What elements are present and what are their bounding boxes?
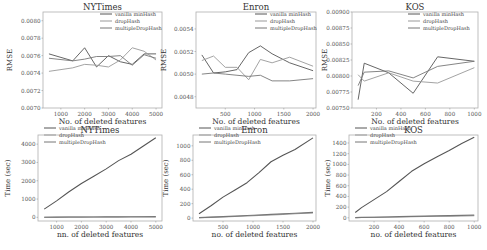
y-tick-label: 200 (336, 204, 347, 210)
chart-panel-1: NYTimes100020003000400050000.00700.00720… (6, 2, 164, 126)
chart-panel-4: NYTimes100020003000400050000100020003000… (4, 125, 163, 239)
y-axis-label: RMSE (160, 49, 168, 71)
chart-panel-2: Enron5001000150020000.00480.00500.00520.… (160, 2, 321, 126)
legend-label: multipleDropHash (214, 139, 261, 146)
legend-label: dropHash (59, 132, 85, 139)
y-tick-label: 0.0078 (21, 35, 41, 41)
chart-title: Enron (243, 2, 270, 12)
y-tick-label: 4000 (21, 141, 36, 147)
y-tick-label: 600 (180, 172, 191, 178)
figure: NYTimes100020003000400050000.00700.00720… (0, 0, 487, 250)
chart-panel-3: KOS20040060080010000.007500.007750.00800… (321, 2, 482, 126)
legend-label: dropHash (115, 18, 141, 25)
y-axis-label: Time (sec) (4, 159, 12, 196)
x-axis-label: nn. of deleted features (57, 230, 143, 239)
y-tick-label: 0.0076 (21, 53, 41, 59)
legend-label: multipleDropHash (370, 139, 417, 146)
legend-label: vanilla minHash (58, 125, 101, 131)
y-tick-label: 1400 (332, 140, 347, 146)
y-tick-label: 0.0048 (174, 94, 194, 100)
legend-label: multipleDropHash (59, 139, 106, 146)
y-tick-label: 1000 (21, 196, 36, 202)
legend-label: multipleDropHash (270, 25, 317, 32)
y-tick-label: 0.00900 (326, 9, 350, 15)
chart-panel-5: Enron50010001500200002004006008001000no.… (162, 125, 321, 239)
y-tick-label: 0 (32, 214, 36, 220)
plot-frame (349, 135, 478, 221)
chart-title: KOS (406, 2, 425, 12)
y-tick-label: 0.00800 (326, 73, 350, 79)
y-tick-label: 2000 (21, 178, 36, 184)
y-axis-label: Time (sec) (162, 159, 170, 196)
x-tick-label: 1000 (467, 224, 482, 230)
plot-frame (38, 135, 162, 221)
legend-label: vanilla minHash (114, 11, 157, 17)
x-tick-label: 2000 (306, 111, 321, 117)
legend-label: multipleDropHash (423, 25, 470, 32)
legend-label: vanilla minHash (422, 11, 465, 17)
y-tick-label: 800 (180, 157, 191, 163)
y-tick-label: 0.0080 (21, 18, 41, 24)
y-tick-label: 400 (336, 193, 347, 199)
legend-label: dropHash (423, 18, 449, 25)
chart-panel-6: KOS2004006008001000020040060080010001200… (324, 125, 482, 239)
y-tick-label: 800 (336, 172, 347, 178)
legend-label: multipleDropHash (115, 25, 162, 32)
y-tick-label: 0.0070 (21, 105, 41, 111)
series-line-multipledrophash (44, 217, 156, 218)
legend-label: vanilla minHash (269, 11, 312, 17)
x-axis-label: no. of deleted features (212, 230, 298, 239)
y-tick-label: 0.00750 (326, 105, 350, 111)
x-tick-label: 2000 (306, 224, 321, 230)
y-tick-label: 0.0054 (174, 26, 194, 32)
y-tick-label: 200 (180, 201, 191, 207)
legend-label: dropHash (370, 132, 396, 139)
y-tick-label: 0.0074 (21, 70, 41, 76)
legend-label: vanilla minHash (369, 125, 412, 131)
y-tick-label: 0.00825 (326, 57, 350, 63)
legend-label: dropHash (270, 18, 296, 25)
y-tick-label: 0 (187, 215, 191, 221)
legend-label: vanilla minHash (213, 125, 256, 131)
y-axis-label: RMSE (6, 49, 14, 71)
x-tick-label: 1000 (467, 111, 482, 117)
y-tick-label: 1000 (176, 143, 191, 149)
y-tick-label: 0 (343, 215, 347, 221)
y-tick-label: 0.00850 (326, 41, 350, 47)
y-axis-label: Time (sec) (324, 159, 332, 196)
y-tick-label: 0.0052 (174, 49, 194, 55)
y-tick-label: 600 (336, 183, 347, 189)
legend-label: dropHash (214, 132, 240, 139)
y-tick-label: 0.0072 (21, 88, 41, 94)
y-tick-label: 0.00875 (326, 25, 350, 31)
y-tick-label: 0.00775 (326, 89, 350, 95)
y-tick-label: 1200 (332, 151, 347, 157)
y-tick-label: 3000 (21, 159, 36, 165)
y-axis-label: RMSE (321, 49, 329, 71)
y-tick-label: 0.0050 (174, 71, 194, 77)
x-tick-label: 5000 (149, 224, 164, 230)
y-tick-label: 1000 (332, 161, 347, 167)
y-tick-label: 400 (180, 186, 191, 192)
x-tick-label: 5000 (149, 111, 164, 117)
x-axis-label: no. of deleted features (371, 230, 457, 239)
